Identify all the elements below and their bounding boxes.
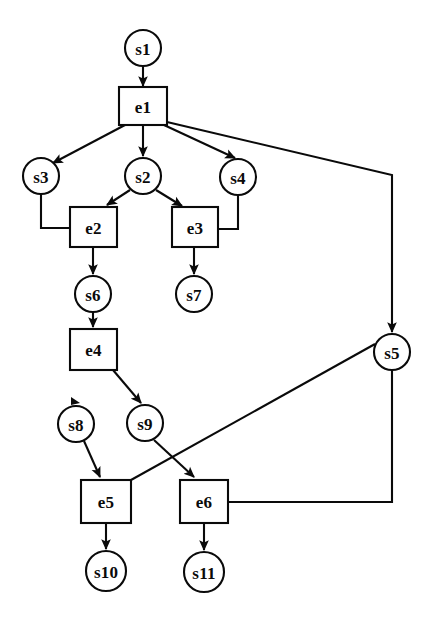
node-e6-label: e6 (196, 493, 212, 512)
node-e2[interactable]: e2 (70, 207, 117, 247)
diagram-canvas: s1e1s3s2s4e2e3s6s7e4s5s8s9e5e6s10s11 (0, 0, 432, 627)
node-s4[interactable]: s4 (220, 159, 256, 195)
node-s5-label: s5 (384, 344, 400, 363)
node-s6-label: s6 (85, 286, 101, 305)
node-s6[interactable]: s6 (75, 276, 111, 312)
edge-s9-e6 (154, 440, 194, 477)
node-e1[interactable]: e1 (119, 87, 167, 125)
edge-s2-e3 (156, 190, 182, 206)
edge-e4-s9 (113, 370, 141, 403)
node-s10-label: s10 (94, 563, 118, 582)
edge-s8-e5 (84, 441, 100, 477)
node-s3[interactable]: s3 (23, 158, 59, 194)
node-e6[interactable]: e6 (180, 480, 228, 523)
node-s10[interactable]: s10 (86, 551, 126, 591)
flow-diagram: s1e1s3s2s4e2e3s6s7e4s5s8s9e5e6s10s11 (0, 0, 432, 627)
node-e3-label: e3 (187, 219, 203, 238)
edge-s5-e5 (131, 344, 375, 480)
node-layer: s1e1s3s2s4e2e3s6s7e4s5s8s9e5e6s10s11 (23, 30, 410, 592)
node-s2-label: s2 (135, 168, 151, 187)
node-e5[interactable]: e5 (81, 480, 131, 523)
node-s9-label: s9 (137, 415, 153, 434)
node-e1-label: e1 (135, 98, 151, 117)
edge-s2-e2 (107, 190, 130, 205)
node-e4-label: e4 (85, 341, 102, 360)
node-s9[interactable]: s9 (127, 405, 163, 441)
edge-e6-s5 (228, 370, 392, 502)
node-s7[interactable]: s7 (176, 276, 212, 312)
node-s11-label: s11 (192, 564, 215, 583)
node-s2[interactable]: s2 (125, 158, 161, 194)
node-s8[interactable]: s8 (58, 406, 94, 442)
node-s1-label: s1 (135, 40, 151, 59)
node-s3-label: s3 (33, 168, 49, 187)
node-s7-label: s7 (186, 286, 202, 305)
node-e5-label: e5 (98, 493, 114, 512)
edge-s3-e2 (41, 194, 70, 228)
node-s11[interactable]: s11 (184, 552, 224, 592)
node-s5[interactable]: s5 (374, 334, 410, 370)
edge-s4-e3 (218, 195, 238, 229)
node-s8-label: s8 (68, 416, 84, 435)
node-s1[interactable]: s1 (125, 30, 161, 66)
node-e2-label: e2 (85, 219, 101, 238)
edge-e1-s3 (53, 125, 125, 163)
edge-e4-s8-arrowhead-icon (71, 397, 80, 405)
node-s4-label: s4 (230, 169, 246, 188)
node-e3[interactable]: e3 (172, 207, 218, 247)
node-e4[interactable]: e4 (70, 329, 117, 370)
